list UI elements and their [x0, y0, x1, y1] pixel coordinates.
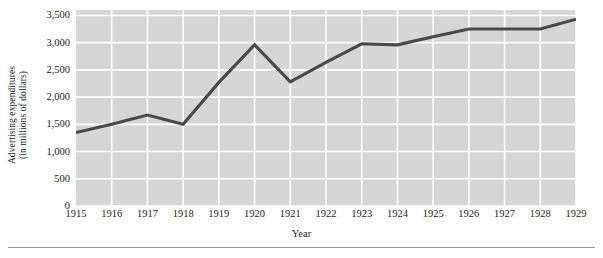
- chart-figure: Advertising expenditures (in millions of…: [0, 0, 603, 258]
- x-tick-label: 1915: [56, 208, 96, 221]
- vertical-gridlines: [112, 10, 576, 206]
- x-tick-label: 1923: [342, 208, 382, 221]
- y-tick-label: 500: [28, 174, 70, 185]
- x-tick-label: 1921: [270, 208, 310, 221]
- x-tick-label: 1922: [306, 208, 346, 221]
- x-tick-label: 1917: [127, 208, 167, 221]
- y-axis-title-line-1: Advertising expenditures: [7, 66, 18, 164]
- x-tick-label: 1929: [556, 208, 596, 221]
- x-tick-label: 1924: [377, 208, 417, 221]
- x-tick-label: 1926: [449, 208, 489, 221]
- y-tick-label: 1,500: [28, 119, 70, 130]
- y-tick-label: 2,000: [28, 92, 70, 103]
- plot-svg: [76, 10, 576, 206]
- x-tick-label: 1920: [235, 208, 275, 221]
- x-tick-label: 1916: [92, 208, 132, 221]
- x-tick-label: 1918: [163, 208, 203, 221]
- y-tick-label: 3,500: [28, 10, 70, 21]
- x-tick-label: 1919: [199, 208, 239, 221]
- x-axis-tick-labels: 1915191619171918191919201921192219231924…: [76, 208, 576, 226]
- plot-area: [76, 10, 576, 206]
- y-tick-label: 3,000: [28, 37, 70, 48]
- x-tick-label: 1928: [520, 208, 560, 221]
- y-tick-label: 1,000: [28, 146, 70, 157]
- x-tick-label: 1927: [485, 208, 525, 221]
- x-axis-title: Year: [0, 228, 603, 239]
- x-tick-label: 1925: [413, 208, 453, 221]
- bottom-divider: [8, 247, 595, 248]
- y-tick-label: 2,500: [28, 65, 70, 76]
